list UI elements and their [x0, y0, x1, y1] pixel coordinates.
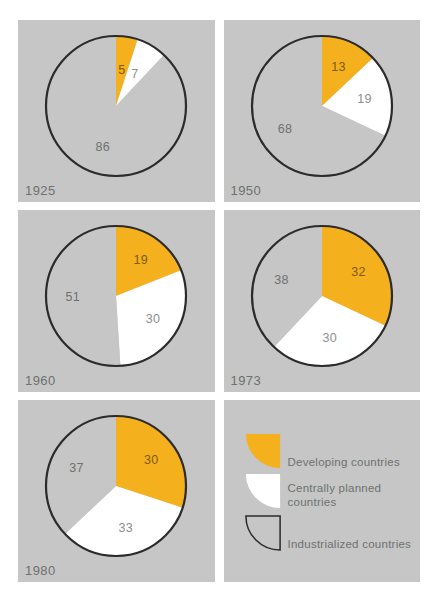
pie-svg-1960 — [42, 222, 190, 370]
legend-swatch-icon-1 — [244, 472, 282, 510]
pie-chart-1980: 303337 — [42, 412, 190, 560]
panel-year-label: 1973 — [231, 373, 262, 388]
quarter-circle-shape — [245, 516, 279, 550]
legend-swatch-icon-0 — [244, 432, 282, 470]
pie-panel-1980: 3033371980 — [18, 400, 215, 582]
quarter-circle-shape — [245, 434, 279, 468]
legend-item-2: Industrialized countries — [244, 514, 412, 552]
legend-label-1: Centrally plannedcountries — [288, 482, 382, 510]
legend-label-0: Developing countries — [288, 456, 400, 471]
pie-panel-1960: 1930511960 — [18, 210, 215, 392]
pie-chart-grid: 5786192513196819501930511960323038197330… — [18, 20, 420, 582]
legend-label-2: Industrialized countries — [288, 538, 412, 553]
pie-chart-1925: 5786 — [42, 32, 190, 180]
pie-chart-1973: 323038 — [248, 222, 396, 370]
legend-list: Developing countriesCentrally plannedcou… — [244, 422, 413, 574]
panel-year-label: 1980 — [25, 563, 56, 578]
pie-slice-industrialized — [46, 226, 120, 366]
pie-panel-1950: 1319681950 — [224, 20, 421, 202]
pie-svg-1973 — [248, 222, 396, 370]
legend-item-1: Centrally plannedcountries — [244, 472, 382, 510]
quarter-circle-shape — [245, 474, 279, 508]
panel-year-label: 1925 — [25, 183, 56, 198]
panel-year-label: 1960 — [25, 373, 56, 388]
pie-svg-1980 — [42, 412, 190, 560]
pie-svg-1950 — [248, 32, 396, 180]
pie-panel-1925: 57861925 — [18, 20, 215, 202]
legend-swatch-icon-2 — [244, 514, 282, 552]
panel-year-label: 1950 — [231, 183, 262, 198]
pie-chart-1960: 193051 — [42, 222, 190, 370]
legend-panel: Developing countriesCentrally plannedcou… — [224, 400, 421, 582]
pie-svg-1925 — [42, 32, 190, 180]
legend-item-0: Developing countries — [244, 432, 400, 470]
pie-panel-1973: 3230381973 — [224, 210, 421, 392]
pie-chart-1950: 131968 — [248, 32, 396, 180]
